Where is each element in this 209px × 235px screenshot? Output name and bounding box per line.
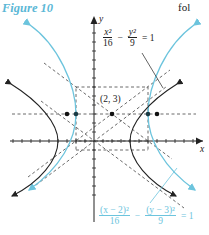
center-point	[110, 112, 115, 117]
fraction: x² 16	[103, 27, 113, 48]
centered-hyperbola-equation: x² 16 − y² 9 = 1	[101, 27, 157, 48]
x-axis-label: x	[200, 144, 204, 154]
fraction: y² 9	[128, 27, 137, 48]
shifted-hyperbola-right-branch	[148, 25, 195, 190]
x-axis	[10, 138, 203, 145]
asymptote-line	[41, 101, 184, 208]
vertex-point-left	[74, 112, 79, 117]
vertex-point-right	[146, 112, 151, 117]
shifted-hyperbola-equation: (x − 2)² 16 − (y − 3)² 9 = 1	[97, 205, 196, 226]
y-axis	[91, 16, 98, 222]
asymptotes-shifted	[28, 63, 172, 177]
x-axis-ticks	[13, 139, 193, 143]
asymptotes-centered	[36, 87, 184, 208]
center-label: (2, 3)	[100, 94, 121, 104]
y-axis-arrow-icon	[91, 16, 98, 24]
fraction: (y − 3)² 9	[145, 205, 176, 226]
y-axis-label: y	[99, 14, 103, 24]
focus-point-right	[155, 112, 160, 117]
centered-hyperbola-left-branch	[11, 84, 58, 196]
shifted-hyperbola-left-branch	[29, 25, 76, 190]
fraction: (x − 2)² 16	[99, 205, 130, 226]
focus-point-left	[65, 112, 70, 117]
asymptote-line	[44, 63, 172, 159]
cyan-equation-leader	[150, 168, 177, 203]
